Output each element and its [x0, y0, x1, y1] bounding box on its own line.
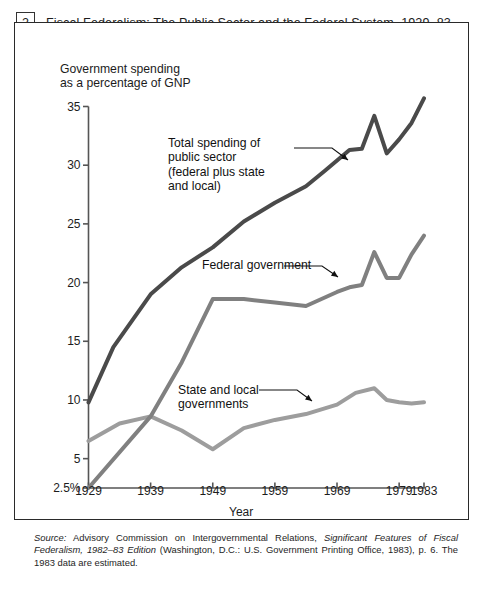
x-axis-tick-label: 1929 [75, 484, 102, 498]
source-note: Source: Advisory Commission on Intergove… [34, 532, 458, 569]
y-axis-tick-label: 10 [30, 393, 81, 407]
annotation-total-spending: Total spending ofpublic sector(federal p… [168, 136, 265, 194]
x-axis-tick-label: 1983 [411, 484, 438, 498]
source-text: Advisory Commission on Intergovernmental… [66, 532, 324, 543]
x-axis-title: Year [229, 505, 253, 519]
y-axis-tick-label: 30 [30, 158, 81, 172]
y-axis-title: Government spendingas a percentage of GN… [60, 62, 191, 90]
x-axis-tick-label: 1969 [324, 484, 351, 498]
annotation-federal-government: Federal government [202, 258, 311, 272]
y-axis-tick-label: 2.5% [30, 481, 81, 495]
x-axis-tick-label: 1979 [386, 484, 413, 498]
x-axis-tick-label: 1939 [137, 484, 164, 498]
x-axis-tick-label: 1959 [262, 484, 289, 498]
source-label: Source: [34, 532, 66, 543]
y-axis-tick-label: 15 [30, 334, 81, 348]
y-axis-tick-label: 35 [30, 100, 81, 114]
y-axis-tick-label: 5 [30, 452, 81, 466]
x-axis-tick-label: 1949 [199, 484, 226, 498]
y-axis-tick-label: 20 [30, 276, 81, 290]
annotation-state-local: State and localgovernments [178, 383, 259, 412]
y-axis-tick-label: 25 [30, 217, 81, 231]
